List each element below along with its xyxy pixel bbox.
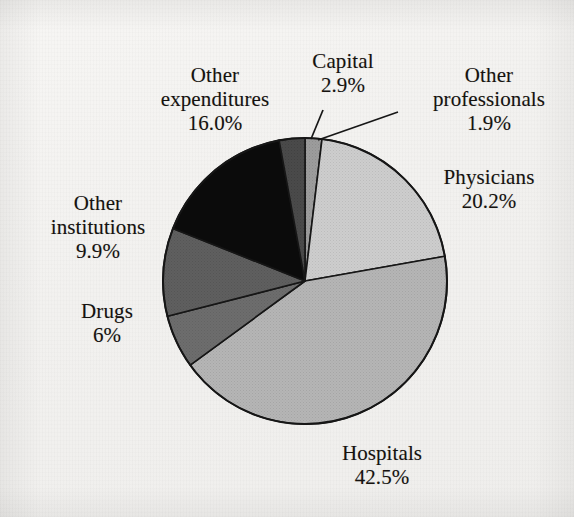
pie-label-other-institutions: Other institutions 9.9% — [18, 192, 178, 264]
pie-label-drugs: Drugs 6% — [52, 300, 162, 348]
pie-label-other-expenditures: Other expenditures 16.0% — [120, 64, 310, 136]
pie-label-other-professionals-value: 1.9% — [404, 112, 574, 136]
pie-label-other-expenditures-name-line1: Other — [120, 64, 310, 88]
pie-label-physicians-value: 20.2% — [414, 190, 564, 214]
pie-label-physicians-name: Physicians — [414, 166, 564, 190]
pie-label-drugs-name: Drugs — [52, 300, 162, 324]
pie-label-hospitals-name: Hospitals — [312, 442, 452, 466]
pie-label-other-institutions-name-line1: Other — [18, 192, 178, 216]
pie-label-hospitals: Hospitals 42.5% — [312, 442, 452, 490]
pie-label-drugs-value: 6% — [52, 324, 162, 348]
pie-label-other-institutions-value: 9.9% — [18, 240, 178, 264]
pie-label-other-professionals-name-line1: Other — [404, 64, 574, 88]
pie-label-other-professionals: Other professionals 1.9% — [404, 64, 574, 136]
pie-chart-page: Capital 2.9% Other expenditures 16.0% Ot… — [0, 0, 574, 517]
pie-label-other-expenditures-value: 16.0% — [120, 112, 310, 136]
leader-line-other-professionals — [318, 112, 398, 140]
pie-label-other-professionals-name-line2: professionals — [404, 88, 574, 112]
pie-label-physicians: Physicians 20.2% — [414, 166, 564, 214]
pie-label-other-expenditures-name-line2: expenditures — [120, 88, 310, 112]
leader-line-capital — [311, 110, 323, 139]
pie-label-other-institutions-name-line2: institutions — [18, 216, 178, 240]
pie-label-hospitals-value: 42.5% — [312, 466, 452, 490]
